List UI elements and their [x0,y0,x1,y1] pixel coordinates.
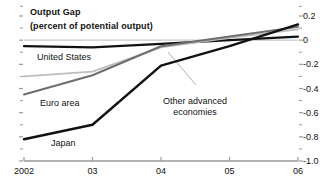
y-tick-label: -0.6 [303,108,319,118]
annotation-line-1: Other advanced [163,96,227,107]
y-tick-label: 0.2 [303,11,316,21]
plot-area [0,0,325,190]
x-tick-label: 06 [293,166,303,176]
y-tick-label: -0.8 [303,132,319,142]
x-tick-label: 03 [87,166,97,176]
series-line-japan [24,24,298,139]
x-tick-label: 2002 [14,166,34,176]
series-label-euro-area: Euro area [40,98,80,108]
annotation-other-advanced-economies: Other advancedeconomies [163,96,227,118]
y-tick-label: -0.2 [303,59,319,69]
y-tick-label: -1.0 [303,156,319,166]
x-tick-label: 05 [224,166,234,176]
plot-svg [0,0,325,190]
series-label-japan: Japan [51,138,76,148]
series-label-united-states: United States [37,52,91,62]
y-tick-label: -0.4 [303,84,319,94]
output-gap-chart: Output Gap (percent of potential output)… [0,0,325,190]
y-tick-label: 0 [303,35,308,45]
x-tick-label: 04 [156,166,166,176]
annotation-line-2: economies [163,107,227,118]
